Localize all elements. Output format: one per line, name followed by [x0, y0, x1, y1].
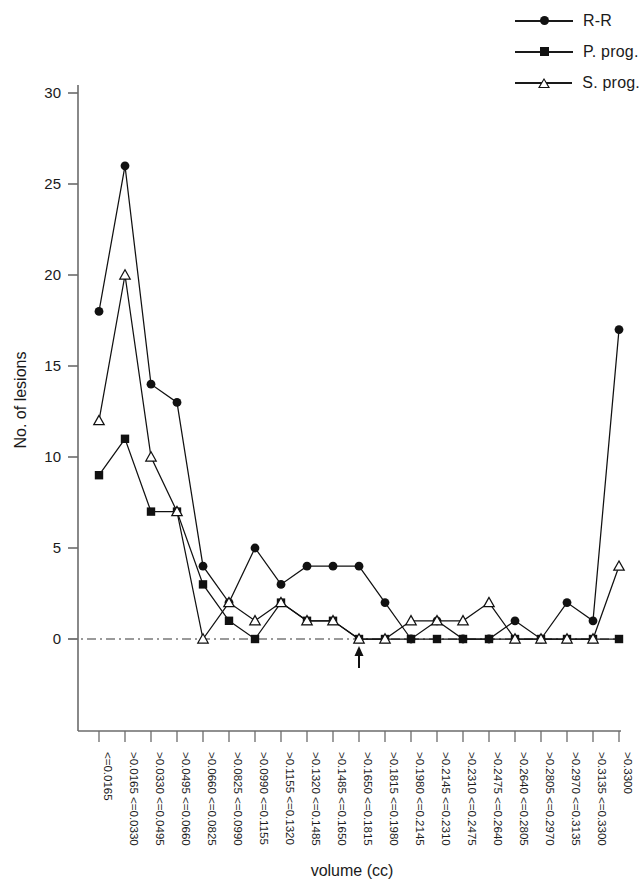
svg-text:>0.0990 <=0.1155: >0.0990 <=0.1155	[258, 752, 270, 845]
svg-text:>0.0495 <=0.0660: >0.0495 <=0.0660	[180, 752, 192, 846]
tick-labels-group: 051015202530No. of lesions<=0.0165>0.016…	[12, 84, 634, 879]
svg-text:No. of lesions: No. of lesions	[12, 352, 29, 449]
svg-text:>0.3135 <=0.3300: >0.3135 <=0.3300	[596, 752, 608, 846]
svg-text:>0.1155 <=0.1320: >0.1155 <=0.1320	[284, 752, 296, 845]
svg-text:25: 25	[44, 175, 61, 192]
svg-text:>0.1320 <=0.1485: >0.1320 <=0.1485	[310, 752, 322, 846]
arrow-annotation	[355, 646, 364, 668]
svg-text:>0.2145 <=0.2310: >0.2145 <=0.2310	[440, 752, 452, 846]
svg-text:>0.0330 <=0.0495: >0.0330 <=0.0495	[154, 752, 166, 846]
svg-text:10: 10	[44, 448, 61, 465]
svg-text:>0.1650 <=0.1815: >0.1650 <=0.1815	[362, 752, 374, 846]
svg-text:20: 20	[44, 266, 61, 283]
svg-text:>0.1980 <=0.2145: >0.1980 <=0.2145	[414, 752, 426, 846]
svg-text:>0.0825 <=0.0990: >0.0825 <=0.0990	[232, 752, 244, 846]
series-group	[94, 161, 624, 643]
svg-text:>0.2640 <=0.2805: >0.2640 <=0.2805	[518, 752, 530, 846]
svg-text:15: 15	[44, 357, 61, 374]
svg-text:>0.1815 <=0.1980: >0.1815 <=0.1980	[388, 752, 400, 846]
lesion-volume-chart: R-R P. prog. S. prog. 051015202530No. of…	[0, 0, 643, 885]
svg-text:>0.2475 <=0.2640: >0.2475 <=0.2640	[492, 752, 504, 846]
svg-text:<=0.0165: <=0.0165	[102, 752, 114, 801]
chart-svg: 051015202530No. of lesions<=0.0165>0.016…	[0, 0, 643, 885]
svg-text:>0.2805 <=0.2970: >0.2805 <=0.2970	[544, 752, 556, 846]
svg-text:>0.0165 <=0.0330: >0.0165 <=0.0330	[128, 752, 140, 846]
svg-text:30: 30	[44, 84, 61, 101]
svg-text:0: 0	[53, 630, 61, 647]
svg-text:5: 5	[53, 539, 61, 556]
svg-text:>0.3300: >0.3300	[622, 752, 634, 794]
svg-text:>0.2310 <=0.2475: >0.2310 <=0.2475	[466, 752, 478, 846]
svg-text:>0.1485 <=0.1650: >0.1485 <=0.1650	[336, 752, 348, 846]
plot-area: 051015202530No. of lesions<=0.0165>0.016…	[0, 0, 643, 885]
svg-text:>0.2970 <=0.3135: >0.2970 <=0.3135	[570, 752, 582, 846]
svg-text:>0.0660 <=0.0825: >0.0660 <=0.0825	[206, 752, 218, 846]
svg-text:volume (cc): volume (cc)	[311, 862, 394, 879]
